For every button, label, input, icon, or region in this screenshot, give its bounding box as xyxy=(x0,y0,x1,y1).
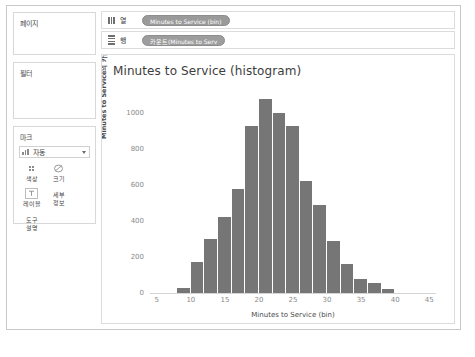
x-axis-tick-label: 20 xyxy=(254,296,263,304)
page-title: Minutes to Service (histogram) xyxy=(113,64,301,78)
x-axis-tick-label: 15 xyxy=(220,296,229,304)
x-axis-tick-label: 5 xyxy=(155,296,159,304)
histogram-bar[interactable] xyxy=(341,264,355,293)
columns-shelf[interactable]: 열 Minutes to Service (bin) xyxy=(101,11,455,29)
mark-type-select[interactable]: 자동 xyxy=(19,146,90,158)
y-axis-tick-label: 1000 xyxy=(114,109,144,117)
x-axis-label: Minutes to Service (bin) xyxy=(150,311,436,319)
pages-card[interactable]: 페이지 xyxy=(13,12,96,55)
plot-area xyxy=(150,95,436,293)
x-axis-tick-label: 30 xyxy=(323,296,332,304)
y-axis-tick-label: 600 xyxy=(114,181,144,189)
histogram-bars xyxy=(150,95,436,293)
marks-tooltip-label-2: 설명 xyxy=(26,224,38,231)
columns-icon xyxy=(106,17,117,24)
histogram-bar[interactable] xyxy=(259,99,273,293)
marks-size-button[interactable]: 크기 xyxy=(45,163,72,188)
marks-label-label: 레이블 xyxy=(23,200,41,207)
histogram-bar[interactable] xyxy=(191,262,205,294)
columns-pill[interactable]: Minutes to Service (bin) xyxy=(142,15,230,26)
filters-card-title: 필터 xyxy=(14,63,95,78)
marks-card-title: 마크 xyxy=(14,127,95,142)
x-axis-ticks: 51015202530354045 xyxy=(150,296,436,308)
y-axis-tick-label: 400 xyxy=(114,217,144,225)
chart-view[interactable]: Minutes to Service (histogram) Minutes t… xyxy=(101,54,455,324)
mark-type-value: 자동 xyxy=(33,147,82,157)
x-axis-tick-label: 45 xyxy=(425,296,434,304)
histogram-bar[interactable] xyxy=(327,241,341,293)
bar-chart-icon xyxy=(22,149,31,155)
columns-shelf-label: 열 xyxy=(120,15,142,25)
marks-label-button[interactable]: 레이블 xyxy=(18,188,45,213)
left-panel: 페이지 필터 마크 자동 색상 xyxy=(7,6,101,329)
marks-color-button[interactable]: 색상 xyxy=(18,163,45,188)
marks-card[interactable]: 마크 자동 색상 xyxy=(13,126,96,224)
marks-detail-button[interactable]: 세부 정보 xyxy=(45,188,72,213)
x-axis-tick-label: 40 xyxy=(391,296,400,304)
pages-card-title: 페이지 xyxy=(14,13,95,28)
y-axis-label: Minutes to Service의 카운트 xyxy=(101,54,108,139)
x-axis-tick-label: 35 xyxy=(357,296,366,304)
marks-buttons: 색상 크기 xyxy=(14,158,95,238)
tableau-worksheet-window: 페이지 필터 마크 자동 색상 xyxy=(6,5,461,330)
x-axis-tick-label: 10 xyxy=(186,296,195,304)
x-axis-line xyxy=(150,293,436,294)
marks-detail-label-2: 정보 xyxy=(53,199,65,206)
size-circle-icon xyxy=(52,163,65,174)
histogram-bar[interactable] xyxy=(286,126,300,293)
histogram-bar[interactable] xyxy=(218,217,232,293)
rows-shelf[interactable]: 행 카운트(Minutes to Serv xyxy=(101,31,455,49)
histogram-bar[interactable] xyxy=(313,205,327,293)
marks-tooltip-label-1: 도구 xyxy=(26,216,38,223)
label-tag-icon xyxy=(25,188,38,199)
histogram-bar[interactable] xyxy=(368,283,382,293)
filters-card[interactable]: 필터 xyxy=(13,62,96,119)
rows-pill[interactable]: 카운트(Minutes to Serv xyxy=(142,35,225,46)
histogram-bar[interactable] xyxy=(245,126,259,293)
marks-color-label: 색상 xyxy=(26,175,38,182)
rows-shelf-label: 행 xyxy=(120,35,142,45)
histogram-bar[interactable] xyxy=(273,113,287,293)
x-axis-tick-label: 25 xyxy=(289,296,298,304)
color-dots-icon xyxy=(25,163,38,174)
right-panel: 열 Minutes to Service (bin) 행 카운트(Minutes… xyxy=(101,6,460,329)
y-axis-ticks: 02004006008001000 xyxy=(110,95,144,293)
histogram-bar[interactable] xyxy=(204,239,218,293)
histogram-bar[interactable] xyxy=(354,279,368,293)
marks-detail-label-1: 세부 xyxy=(53,191,65,198)
rows-icon xyxy=(106,35,117,44)
y-axis-tick-label: 0 xyxy=(114,289,144,297)
y-axis-tick-label: 200 xyxy=(114,253,144,261)
chevron-down-icon[interactable] xyxy=(82,151,86,154)
marks-size-label: 크기 xyxy=(53,175,65,182)
histogram-bar[interactable] xyxy=(232,189,246,293)
histogram-bar[interactable] xyxy=(300,181,314,293)
y-axis-tick-label: 800 xyxy=(114,145,144,153)
marks-tooltip-button[interactable]: 도구 설명 xyxy=(18,213,45,238)
